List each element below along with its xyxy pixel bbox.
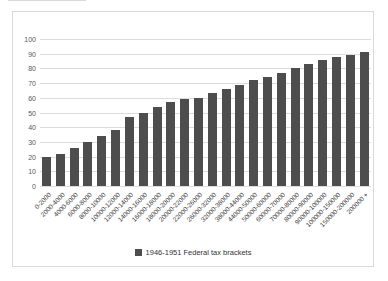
bar[interactable]	[249, 80, 258, 186]
bars-layer	[40, 39, 371, 186]
bar[interactable]	[208, 93, 217, 186]
y-axis-tick-label: 20	[28, 153, 36, 160]
bar[interactable]	[277, 73, 286, 186]
bar[interactable]	[318, 60, 327, 186]
bar[interactable]	[222, 89, 231, 186]
y-axis-tick-label: 10	[28, 168, 36, 175]
y-axis-tick-label: 80	[28, 65, 36, 72]
bar[interactable]	[139, 113, 148, 187]
x-axis-labels: 0-20002000-40004000-60006000-80008000-10…	[40, 186, 371, 242]
bar[interactable]	[111, 130, 120, 186]
bar[interactable]	[97, 136, 106, 186]
bar[interactable]	[360, 52, 369, 186]
y-axis-tick-label: 70	[28, 80, 36, 87]
chart-frame[interactable]: 0102030405060708090100 0-20002000-400040…	[12, 11, 374, 267]
bar[interactable]	[56, 154, 65, 186]
bar[interactable]	[346, 55, 355, 186]
bar[interactable]	[304, 64, 313, 186]
y-axis-tick-label: 90	[28, 50, 36, 57]
bar[interactable]	[263, 77, 272, 186]
legend-swatch-icon	[135, 249, 142, 256]
bar[interactable]	[125, 117, 134, 186]
y-axis-tick-label: 0	[32, 183, 36, 190]
y-axis-tick-label: 60	[28, 94, 36, 101]
bar[interactable]	[194, 98, 203, 186]
plot-area: 0102030405060708090100 0-20002000-400040…	[40, 39, 371, 186]
page-background: 0102030405060708090100 0-20002000-400040…	[0, 0, 388, 281]
bar[interactable]	[291, 68, 300, 186]
bar[interactable]	[166, 102, 175, 186]
cropped-edge-line	[8, 0, 86, 1]
bar[interactable]	[42, 157, 51, 186]
y-axis-tick-label: 100	[24, 36, 36, 43]
bar[interactable]	[70, 148, 79, 186]
bar[interactable]	[83, 142, 92, 186]
bar[interactable]	[153, 107, 162, 186]
y-axis-tick-label: 50	[28, 109, 36, 116]
y-axis-tick-label: 30	[28, 138, 36, 145]
y-axis-tick-label: 40	[28, 124, 36, 131]
bar[interactable]	[332, 57, 341, 186]
bar[interactable]	[235, 85, 244, 186]
bar[interactable]	[180, 99, 189, 186]
chart-legend[interactable]: 1946-1951 Federal tax brackets	[13, 248, 373, 257]
legend-label: 1946-1951 Federal tax brackets	[146, 248, 252, 257]
